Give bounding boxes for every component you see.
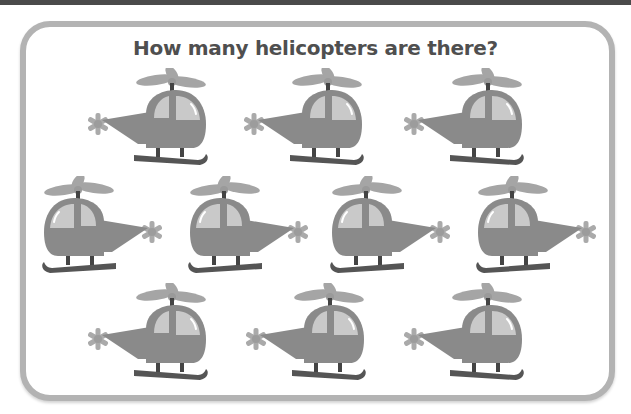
- helicopter-icon: [246, 283, 368, 383]
- helicopter-icon: [244, 68, 366, 168]
- helicopter-icon: [404, 283, 526, 383]
- helicopter-icon: [474, 176, 596, 276]
- question-title: How many helicopters are there?: [0, 36, 631, 60]
- top-bar: [0, 0, 631, 5]
- helicopter-icon: [88, 68, 210, 168]
- helicopter-icon: [40, 176, 162, 276]
- helicopter-icon: [404, 68, 526, 168]
- helicopter-icon: [328, 176, 450, 276]
- helicopter-icon: [186, 176, 308, 276]
- helicopter-icon: [88, 283, 210, 383]
